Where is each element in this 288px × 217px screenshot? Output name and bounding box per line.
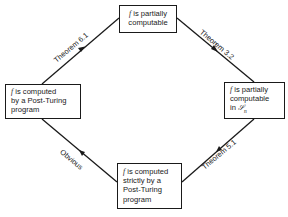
node-partially-computable: f is partially computable [119,5,177,33]
node-partially-computable-in-sn: f is partially computable in 𝒮n [224,82,285,119]
arrow-up-right-icon [78,47,85,53]
var-f: f [129,9,131,18]
node-computed-strictly-post-turing: f is computed strictly by a Post-Turing … [117,163,182,209]
var-f: f [230,85,232,94]
var-f: f [11,87,13,96]
var-f: f [123,167,125,176]
node-computed-post-turing: f is computed by a Post-Turing program [5,84,81,119]
